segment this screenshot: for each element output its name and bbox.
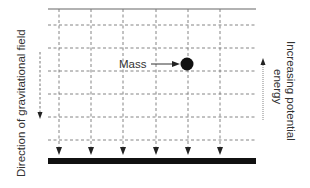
potential-energy-label-line1: Increasing potential <box>285 41 297 141</box>
ground-surface <box>48 158 256 164</box>
potential-energy-arrowhead-icon <box>261 58 266 65</box>
field-lines <box>59 9 220 147</box>
field-arrowheads <box>56 147 223 155</box>
down-arrow-icon <box>153 147 159 155</box>
equipotential-lines <box>48 25 256 140</box>
field-direction-arrowhead-icon <box>38 112 43 119</box>
down-arrow-icon <box>88 147 94 155</box>
down-arrow-icon <box>217 147 223 155</box>
mass-label: Mass <box>119 58 147 70</box>
down-arrow-icon <box>185 147 191 155</box>
down-arrow-icon <box>56 147 62 155</box>
mass-object <box>181 58 194 71</box>
down-arrow-icon <box>120 147 126 155</box>
mass-pointer-arrowhead-icon <box>172 61 180 67</box>
potential-energy-label-line2: energy <box>272 69 284 104</box>
gravitational-field-diagram: Mass Direction of gravitational field In… <box>0 0 310 188</box>
field-direction-label: Direction of gravitational field <box>15 29 27 177</box>
